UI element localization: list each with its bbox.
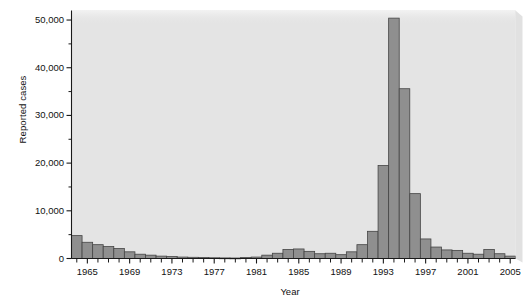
x-tick-label: 1981 — [237, 267, 277, 277]
x-axis-tick-labels: 1965196919731977198119851989199319972001… — [0, 0, 532, 304]
x-tick-label: 1977 — [194, 267, 234, 277]
x-tick-label: 1997 — [406, 267, 446, 277]
x-tick-label: 1965 — [67, 267, 107, 277]
x-tick-label: 1989 — [321, 267, 361, 277]
x-tick-label: 1973 — [152, 267, 192, 277]
chart-figure: Reported cases Year 010,00020,00030,0004… — [0, 0, 532, 304]
x-tick-label: 2005 — [490, 267, 530, 277]
x-tick-label: 1969 — [110, 267, 150, 277]
x-tick-label: 1993 — [363, 267, 403, 277]
x-tick-label: 2001 — [448, 267, 488, 277]
x-tick-label: 1985 — [279, 267, 319, 277]
